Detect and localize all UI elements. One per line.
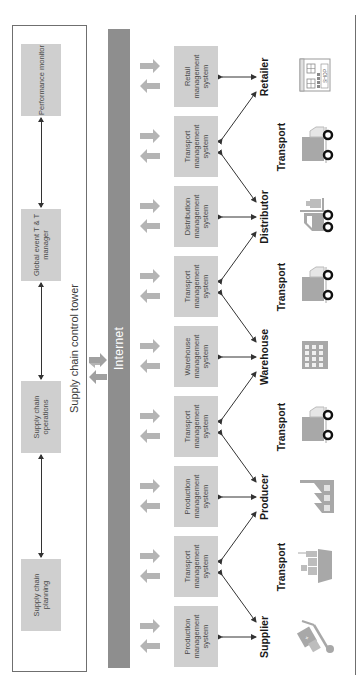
- factory-icon: [296, 477, 336, 515]
- system-label: Transport management system: [183, 396, 210, 457]
- system-box-transport-4: Transport management system: [174, 116, 218, 177]
- entity-label-retailer: Retailer: [258, 58, 270, 97]
- entity-label-warehouse: Warehouse: [258, 329, 270, 385]
- arrow-up-icon: [89, 370, 107, 384]
- system-label: Retail management system: [183, 46, 210, 107]
- exchange-arrows-icon: [140, 475, 162, 515]
- internet-label: Internet: [112, 327, 126, 370]
- tower-box-planning: Supply chain planning: [21, 559, 61, 631]
- svg-text:SHOP: SHOP: [322, 68, 328, 83]
- system-box-distribution: Distribution management system: [174, 186, 218, 247]
- truck-icon: [296, 125, 338, 165]
- shop-icon: SHOP: [296, 55, 332, 95]
- exchange-arrows-icon: [140, 55, 162, 95]
- internet-bar: Internet: [108, 29, 130, 668]
- truck-icon: [296, 265, 338, 305]
- system-box-transport-1: Transport management system: [174, 536, 218, 597]
- tower-box-label: Global event T & T manager: [32, 209, 50, 281]
- exchange-arrows-icon: [140, 125, 162, 165]
- system-label: Transport management system: [183, 116, 210, 177]
- tower-box-operations: Supply chain operations: [21, 381, 61, 453]
- system-box-warehouse: Warehouse management system: [174, 326, 218, 387]
- tower-connector-arrow: [41, 118, 42, 207]
- tower-box-performance: Performance monitor: [21, 44, 61, 116]
- exchange-arrows-icon: [140, 265, 162, 305]
- entity-label-producer: Producer: [258, 474, 270, 520]
- system-box-producer-production: Production management system: [174, 466, 218, 527]
- entity-label-transport: Transport: [275, 543, 287, 591]
- system-box-supplier-production: Production management system: [174, 606, 218, 667]
- entity-label-transport: Transport: [275, 123, 287, 171]
- system-box-retail: Retail management system: [174, 46, 218, 107]
- system-label: Transport management system: [183, 256, 210, 317]
- exchange-arrows-icon: [140, 545, 162, 585]
- system-label: Warehouse management system: [183, 326, 210, 387]
- exchange-arrows-icon: [140, 335, 162, 375]
- tower-box-label: Supply chain planning: [32, 559, 50, 631]
- system-box-transport-2: Transport management system: [174, 396, 218, 457]
- hand-truck-icon: +: [296, 615, 338, 655]
- tower-box-label: Performance monitor: [37, 45, 46, 115]
- entity-label-distributor: Distributor: [258, 190, 270, 244]
- control-tower-frame: Supply chain planning Supply chain opera…: [12, 25, 87, 672]
- control-tower-title: Supply chain control tower: [68, 26, 80, 671]
- system-box-transport-3: Transport management system: [174, 256, 218, 317]
- outer-frame-edge: [355, 15, 356, 675]
- tower-box-label: Supply chain operations: [32, 381, 50, 453]
- entity-connectors: [218, 0, 263, 697]
- truck-icon: [296, 405, 338, 445]
- arrow-down-icon: [89, 353, 107, 367]
- system-label: Production management system: [183, 606, 210, 667]
- entity-label-transport: Transport: [275, 403, 287, 451]
- system-label: Production management system: [183, 466, 210, 527]
- ship-icon: [296, 547, 338, 585]
- entity-label-transport: Transport: [275, 263, 287, 311]
- forklift-icon: [296, 195, 338, 235]
- system-label: Transport management system: [183, 536, 210, 597]
- exchange-arrows-icon: [140, 405, 162, 445]
- system-label: Distribution management system: [183, 186, 210, 247]
- entity-label-supplier: Supplier: [258, 616, 270, 658]
- exchange-arrows-icon: [140, 615, 162, 655]
- exchange-arrows-icon: [140, 195, 162, 235]
- tower-connector-arrow: [41, 455, 42, 557]
- warehouse-building-icon: [296, 335, 336, 375]
- tower-box-global-event: Global event T & T manager: [21, 209, 61, 281]
- tower-connector-arrow: [41, 283, 42, 379]
- supply-chain-diagram: Supply chain planning Supply chain opera…: [0, 0, 360, 697]
